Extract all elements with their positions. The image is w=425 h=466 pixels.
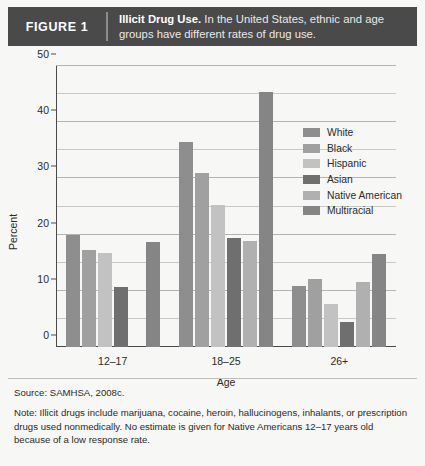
legend-swatch-icon	[303, 128, 320, 137]
bar-asian[interactable]	[340, 322, 354, 347]
legend-item[interactable]: Multiracial	[303, 203, 402, 219]
y-axis-tick-label: 10	[37, 273, 56, 285]
bar-white[interactable]	[66, 235, 80, 347]
legend-item[interactable]: Black	[303, 141, 402, 157]
bar-white[interactable]	[292, 286, 306, 347]
legend-swatch-icon	[303, 175, 320, 184]
legend-item[interactable]: White	[303, 125, 402, 141]
bar-hispanic[interactable]	[324, 304, 338, 347]
bar-white[interactable]	[179, 142, 193, 347]
y-axis-tick-label: 0	[43, 329, 56, 341]
legend-item[interactable]: Hispanic	[303, 156, 402, 172]
legend-swatch-icon	[303, 191, 320, 200]
bar-black[interactable]	[195, 173, 209, 347]
chart-plot-area: Percent 01020304050 12–1718–2526+ Age Wh…	[0, 46, 425, 366]
bar-multiracial[interactable]	[259, 92, 273, 347]
chart-legend: WhiteBlackHispanicAsianNative AmericanMu…	[303, 125, 402, 219]
legend-item[interactable]: Native American	[303, 187, 402, 203]
legend-label: White	[327, 127, 353, 138]
bar-group: 12–17	[56, 66, 169, 347]
legend-swatch-icon	[303, 206, 320, 215]
legend-label: Native American	[327, 190, 402, 201]
bar-asian[interactable]	[227, 238, 241, 347]
legend-swatch-icon	[303, 159, 320, 168]
legend-label: Black	[327, 143, 352, 154]
figure-header: FIGURE 1 Illicit Drug Use. In the United…	[8, 7, 417, 46]
y-axis-tick-label: 20	[37, 217, 56, 229]
source-text: Source: SAMHSA, 2008c.	[14, 387, 124, 398]
figure-number: FIGURE 1	[8, 7, 106, 46]
legend-swatch-icon	[303, 144, 320, 153]
legend-label: Hispanic	[327, 158, 367, 169]
bar-hispanic[interactable]	[98, 253, 112, 347]
bar-group: 18–25	[169, 66, 282, 347]
bar-multiracial[interactable]	[372, 254, 386, 347]
y-axis-label: Percent	[7, 214, 19, 250]
legend-item[interactable]: Asian	[303, 172, 402, 188]
bar-native-american[interactable]	[243, 241, 257, 347]
x-axis-tick-label: 18–25	[211, 355, 240, 367]
x-axis-tick-label: 26+	[330, 355, 348, 367]
bar-black[interactable]	[82, 250, 96, 347]
y-axis-tick-label: 50	[37, 48, 56, 60]
y-axis-tick-label: 30	[37, 160, 56, 172]
figure-panel: FIGURE 1 Illicit Drug Use. In the United…	[0, 0, 425, 466]
legend-label: Asian	[327, 174, 353, 185]
legend-label: Multiracial	[327, 205, 373, 216]
bar-native-american[interactable]	[356, 282, 370, 347]
note-text: Note: Illicit drugs include marijuana, c…	[14, 406, 412, 447]
caption-title: Illicit Drug Use.	[119, 13, 201, 25]
bar-multiracial[interactable]	[146, 242, 160, 347]
figure-caption: Illicit Drug Use. In the United States, …	[108, 7, 417, 46]
footnote-divider	[8, 378, 417, 379]
x-axis-tick-label: 12–17	[98, 355, 127, 367]
bar-asian[interactable]	[114, 287, 128, 347]
bar-black[interactable]	[308, 279, 322, 347]
y-axis-tick-label: 40	[37, 104, 56, 116]
bar-hispanic[interactable]	[211, 205, 225, 347]
